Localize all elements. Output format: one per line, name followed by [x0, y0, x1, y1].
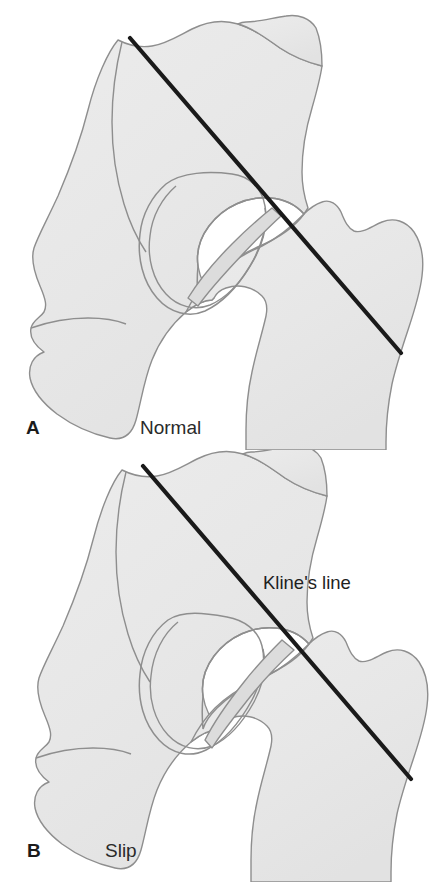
panel-caption-slip: Slip [105, 840, 137, 862]
panel-letter-a: A [26, 417, 40, 439]
panel-normal [0, 0, 429, 450]
slip-hip-illustration [0, 450, 429, 882]
panel-letter-b: B [27, 840, 41, 862]
kline-line-annotation: Kline's line [263, 572, 351, 594]
kline-line-figure: A Normal B Slip Kline's line [0, 0, 429, 882]
panel-slip [0, 450, 429, 882]
panel-caption-normal: Normal [140, 417, 201, 439]
normal-hip-illustration [0, 0, 429, 450]
